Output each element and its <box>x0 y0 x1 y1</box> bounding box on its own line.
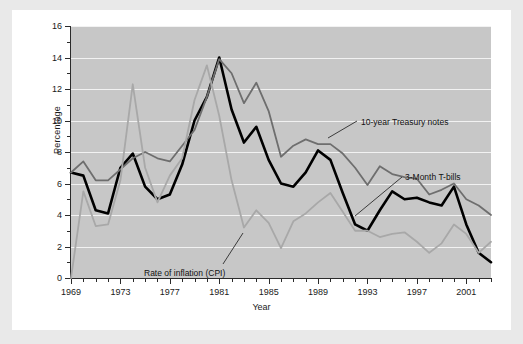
x-axis-minor-tick <box>429 278 430 282</box>
series-annotation-label: 10-year Treasury notes <box>361 117 448 127</box>
x-axis-tick-label: 1997 <box>407 287 427 297</box>
x-axis-minor-tick <box>83 278 84 282</box>
x-axis-minor-tick <box>306 278 307 282</box>
y-axis-tick-label: 6 <box>57 179 62 189</box>
x-axis-minor-tick <box>157 278 158 282</box>
x-axis-tick <box>170 278 171 284</box>
x-axis-tick-label: 1993 <box>357 287 377 297</box>
series-annotation-label: Rate of inflation (CPI) <box>144 268 225 278</box>
x-axis-tick-label: 1969 <box>61 287 81 297</box>
y-axis-tick-label: 16 <box>52 21 62 31</box>
x-axis-minor-tick <box>405 278 406 282</box>
chart-figure: Percentage Year 0246810121416 1969197319… <box>25 20 498 320</box>
series-lines <box>71 26 491 278</box>
y-axis-tick-label: 4 <box>57 210 62 220</box>
y-axis-tick-label: 10 <box>52 116 62 126</box>
x-axis-tick <box>318 278 319 284</box>
x-axis-minor-tick <box>392 278 393 282</box>
series-annotation-label: 3-Month T-bills <box>405 172 461 182</box>
x-axis-minor-tick <box>133 278 134 282</box>
x-axis-tick-label: 1977 <box>160 287 180 297</box>
x-axis-minor-tick <box>108 278 109 282</box>
x-axis-tick-label: 1985 <box>259 287 279 297</box>
x-axis-tick <box>417 278 418 284</box>
chart-page: Percentage Year 0246810121416 1969197319… <box>0 0 523 344</box>
x-axis-tick-label: 1981 <box>209 287 229 297</box>
x-axis-minor-tick <box>330 278 331 282</box>
series-line <box>71 59 491 215</box>
plot-area: 0246810121416 19691973197719811985198919… <box>71 26 491 278</box>
x-axis-tick-label: 2001 <box>456 287 476 297</box>
y-axis-tick-label: 0 <box>57 273 62 283</box>
x-axis-minor-tick <box>343 278 344 282</box>
x-axis-minor-tick <box>442 278 443 282</box>
x-axis-minor-tick <box>479 278 480 282</box>
y-axis-tick-label: 8 <box>57 147 62 157</box>
y-axis-tick-label: 2 <box>57 242 62 252</box>
x-axis-tick-label: 1989 <box>308 287 328 297</box>
x-axis-title: Year <box>25 302 498 312</box>
x-axis-minor-tick <box>145 278 146 282</box>
x-axis-tick-label: 1973 <box>110 287 130 297</box>
y-axis-tick-label: 14 <box>52 53 62 63</box>
x-axis-tick <box>71 278 72 284</box>
x-axis-minor-tick <box>281 278 282 282</box>
figure-card: Percentage Year 0246810121416 1969197319… <box>12 10 511 330</box>
x-axis-tick <box>367 278 368 284</box>
x-axis-minor-tick <box>256 278 257 282</box>
x-axis-minor-tick <box>182 278 183 282</box>
x-axis-minor-tick <box>293 278 294 282</box>
x-axis-minor-tick <box>454 278 455 282</box>
x-axis-minor-tick <box>195 278 196 282</box>
x-axis-minor-tick <box>491 278 492 282</box>
x-axis-tick <box>269 278 270 284</box>
x-axis-minor-tick <box>232 278 233 282</box>
x-axis-minor-tick <box>96 278 97 282</box>
x-axis-tick <box>466 278 467 284</box>
x-axis-minor-tick <box>244 278 245 282</box>
x-axis-tick <box>120 278 121 284</box>
y-axis-tick-label: 12 <box>52 84 62 94</box>
x-axis-minor-tick <box>355 278 356 282</box>
x-axis-minor-tick <box>207 278 208 282</box>
x-axis-tick <box>219 278 220 284</box>
x-axis-minor-tick <box>380 278 381 282</box>
